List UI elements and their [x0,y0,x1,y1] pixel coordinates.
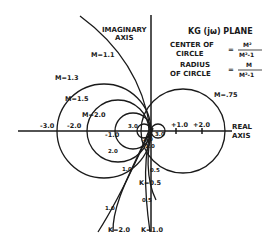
plane-title: KG (jω) PLANE [188,27,253,36]
m-label-0.75: M=.75 [214,91,238,99]
imaginary-axis-label-2: AXIS [115,34,133,42]
radius-label-2: OF CIRCLE [170,70,211,78]
freq-label-3.0-left: 3.0 [128,123,138,129]
radius-eq: = [228,66,234,74]
real-axis-label-1: REAL [232,123,253,131]
center-label-2: CIRCLE [176,50,204,58]
k-label-1.0: K=1.0 [141,226,163,234]
center-eq: = [228,46,234,54]
m-label-1.1: M=1.1 [91,51,115,59]
radius-label-1: RADIUS [180,61,210,69]
imaginary-axis-label-1: IMAGINARY [102,26,148,34]
freq-label-0.5-lower: 0.5 [142,197,152,203]
freq-label-3.0-right: 3.0 [155,131,165,137]
center-denominator: M²-1 [239,51,254,58]
m-label-1.5: M=1.5 [65,95,89,103]
freq-label-2.0-right: 2.0 [143,136,153,142]
nyquist-m-circle-diagram: KG (jω) PLANE CENTER OF CIRCLE = M² M²-1… [0,0,272,242]
tick-label-plus-1: +1.0 [171,121,188,129]
radius-denominator: M²-1 [239,71,254,78]
m-label-2.0: M=2.0 [82,111,106,119]
radius-numerator: M [246,61,252,68]
m-label-1.3: M=1.3 [55,74,78,82]
tick-label-minus-3: -3.0 [40,122,55,130]
center-label-1: CENTER OF [170,41,214,49]
freq-label-1.0-lower: 1.0 [105,205,115,211]
freq-label-0.5-upper: 0.5 [150,167,160,173]
real-axis-label-2: AXIS [232,132,250,140]
freq-label-1.0-right: 1.0 [145,143,155,149]
tick-label-minus-2: -2.0 [67,122,82,130]
k-label-2.0: K=2.0 [108,226,130,234]
tick-label-minus-1: -1.0 [105,131,120,139]
freq-label-1.0-left: 1.0 [122,166,132,172]
freq-label-2.0-left: 2.0 [108,148,118,154]
center-numerator: M² [243,41,252,48]
tick-label-plus-2: +2.0 [193,121,210,129]
k-label-0.5: K=0.5 [139,179,161,187]
